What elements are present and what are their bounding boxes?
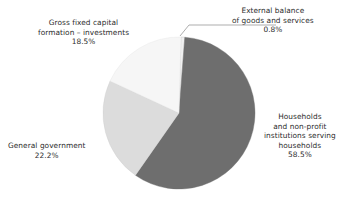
pie-label-households-line2: and non-profit	[264, 122, 336, 132]
pie-label-households: Households and non-profit institutions s…	[264, 112, 336, 160]
pie-label-gfcf-line1: Gross fixed capital	[38, 18, 129, 28]
pie-label-households-value: 58.5%	[264, 150, 336, 160]
pie-label-gfcf-line2: formation – investments	[38, 28, 129, 38]
pie-label-households-line3: institutions serving	[264, 131, 336, 141]
pie-label-general-government-value: 22.2%	[8, 151, 85, 161]
pie-label-gross-fixed-capital-formation: Gross fixed capital formation – investme…	[38, 18, 129, 47]
pie-chart: External balance of goods and services 0…	[0, 0, 345, 212]
pie-label-external-balance-line2: of goods and services	[232, 16, 314, 26]
pie-label-gfcf-value: 18.5%	[38, 37, 129, 47]
pie-label-households-line1: Households	[264, 112, 336, 122]
pie-label-external-balance-line1: External balance	[232, 6, 314, 16]
pie-label-general-government-line1: General government	[8, 141, 85, 151]
pie-label-general-government: General government 22.2%	[8, 141, 85, 160]
pie-label-households-line4: households	[264, 141, 336, 151]
pie-label-external-balance-value: 0.8%	[232, 25, 314, 35]
pie-label-external-balance: External balance of goods and services 0…	[232, 6, 314, 35]
